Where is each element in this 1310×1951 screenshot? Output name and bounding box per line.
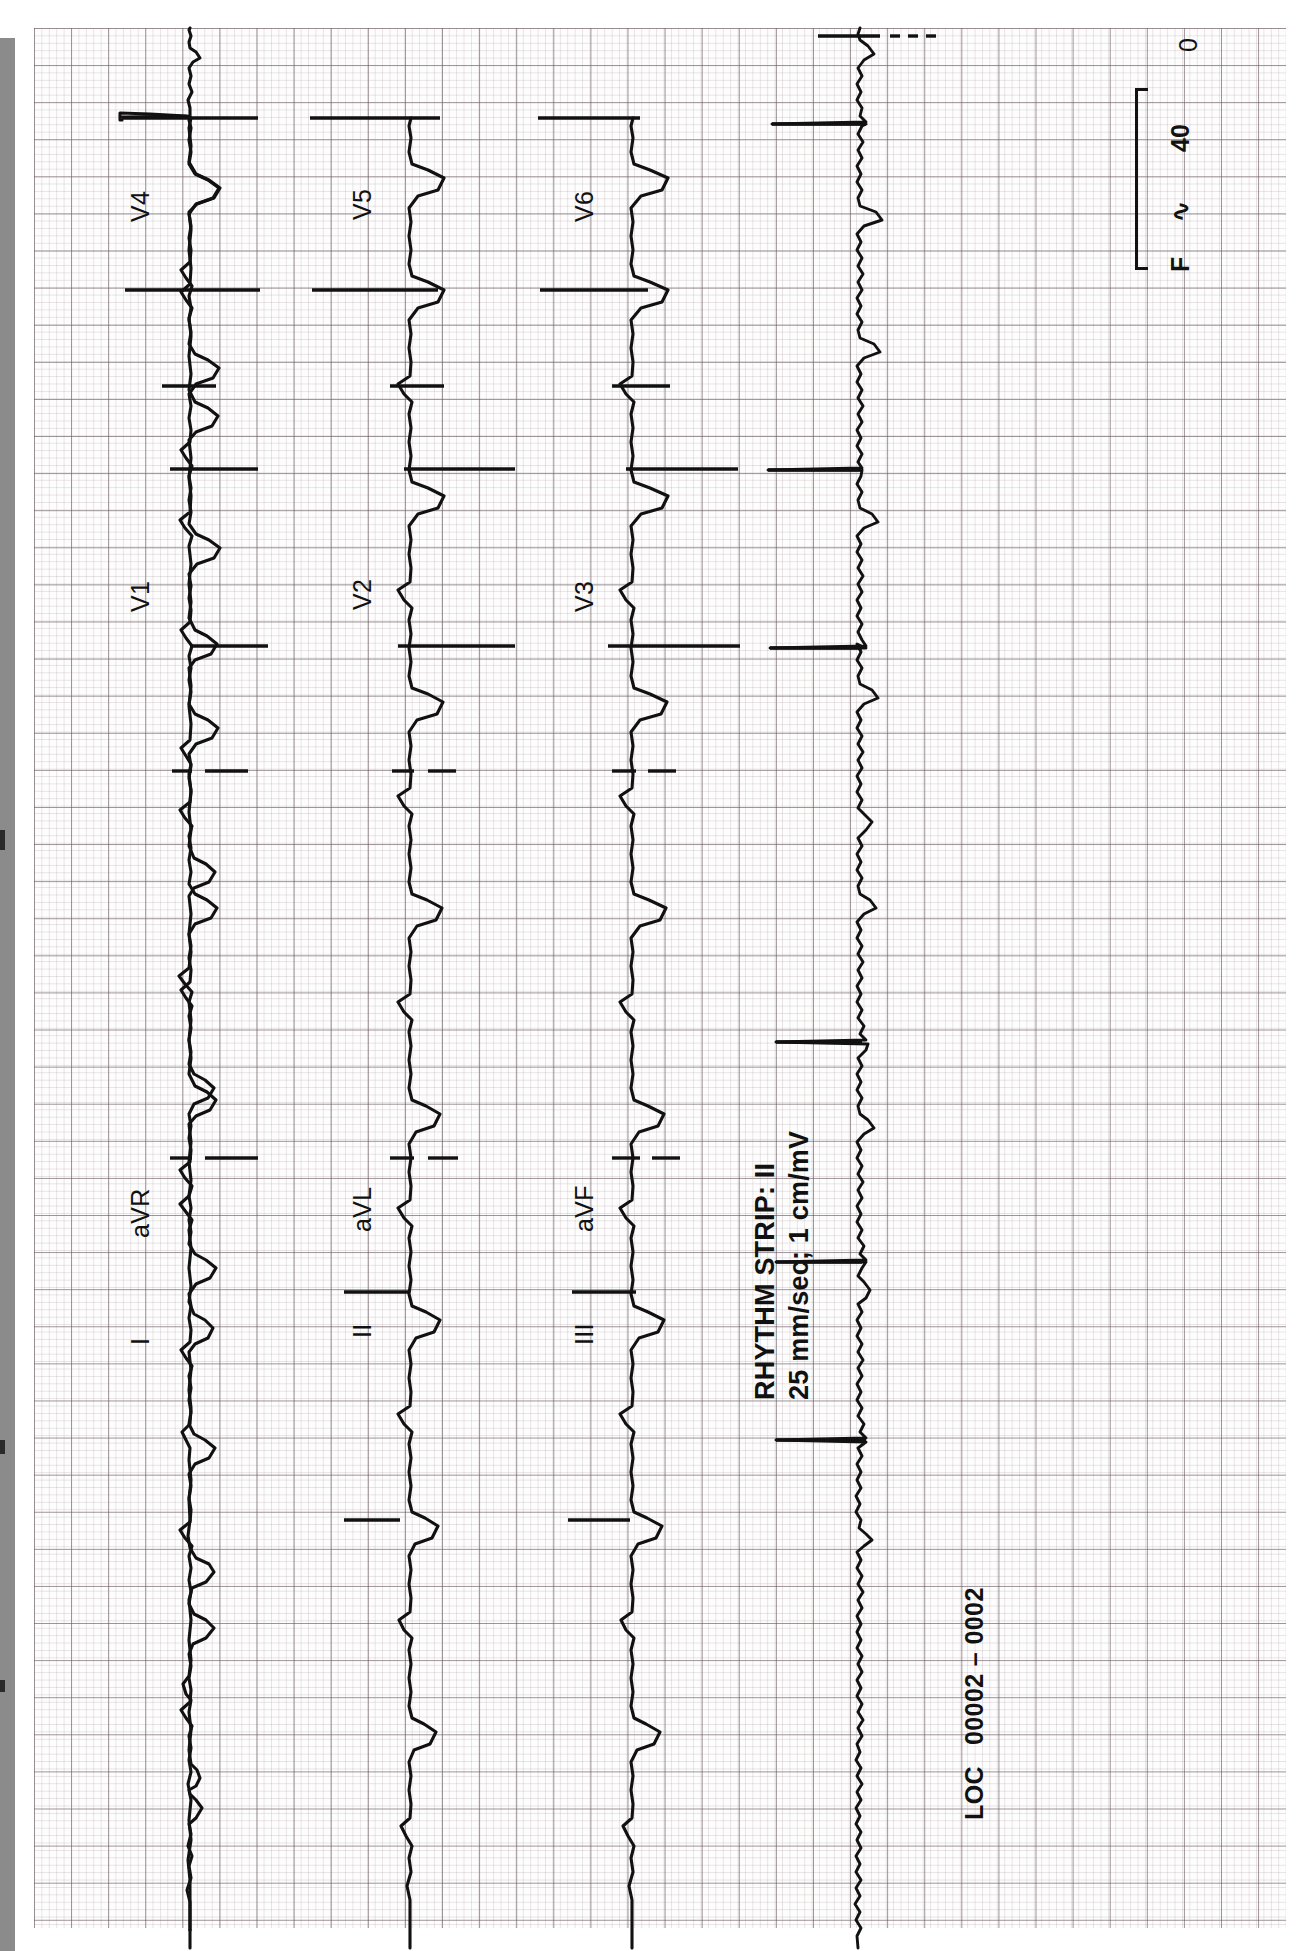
scanner-edge-mark (0, 1680, 5, 1692)
lead-label-aVL: aVL (350, 1187, 375, 1232)
filter-value: 40 (1168, 124, 1193, 152)
scanner-edge-mark (0, 830, 5, 850)
filter-symbol: F (1168, 257, 1193, 272)
lead-label-aVR: aVR (128, 1188, 153, 1238)
filter-bracket (1135, 88, 1148, 270)
lead-label-V1: V1 (128, 581, 153, 612)
ecg-grid-paper (34, 28, 1286, 1928)
scanner-edge-mark (0, 1440, 5, 1454)
scanner-edge-band (0, 38, 15, 1951)
lead-label-III: III (572, 1323, 597, 1345)
rhythm-strip-title: RHYTHM STRIP: II (752, 1163, 779, 1400)
rhythm-strip-settings: 25 mm/sec; 1 cm/mV (786, 1131, 813, 1400)
filter-tilde-icon: ∿ (1168, 201, 1193, 222)
loc-value: 00002 – 0002 (962, 1587, 987, 1745)
loc-label: LOC (962, 1766, 987, 1820)
baseline-zero-label: 0 (1176, 38, 1201, 52)
lead-label-V4: V4 (128, 191, 153, 222)
lead-label-V6: V6 (572, 191, 597, 222)
ecg-page: I aVR V1 V4 II aVL V2 V5 III aVF V3 V6 R… (0, 0, 1310, 1951)
lead-label-aVF: aVF (572, 1185, 597, 1232)
lead-label-II: II (350, 1324, 375, 1339)
lead-label-V2: V2 (350, 579, 375, 610)
lead-label-V3: V3 (572, 581, 597, 612)
lead-label-V5: V5 (350, 189, 375, 220)
lead-label-I: I (128, 1338, 153, 1345)
